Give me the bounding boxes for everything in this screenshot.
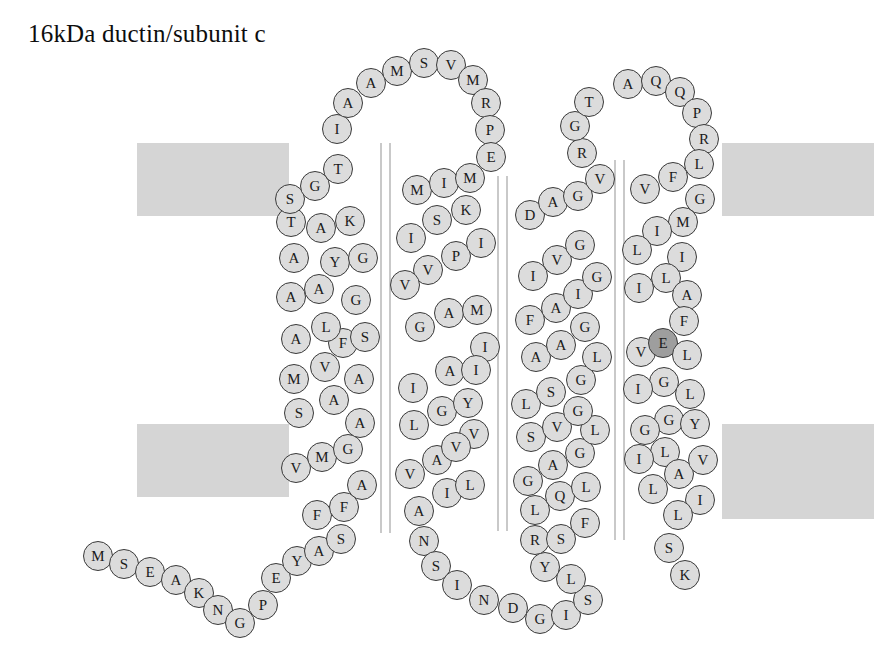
residue-127-L: L <box>684 149 714 179</box>
residue-62-M: M <box>462 295 492 325</box>
residue-26-A: A <box>281 324 311 354</box>
residue-122-A: A <box>613 69 643 99</box>
residue-35-K: K <box>335 206 365 236</box>
helix-rule-3a <box>614 160 616 540</box>
residue-37-A: A <box>306 213 336 243</box>
residue-28-S: S <box>350 322 380 352</box>
residue-32-Y: Y <box>320 247 350 277</box>
residue-70-L: L <box>399 410 429 440</box>
residue-143-L: L <box>675 379 705 409</box>
residue-146-Y: Y <box>680 409 710 439</box>
residue-95-A: A <box>538 450 568 480</box>
residue-80-I: I <box>442 570 472 600</box>
residue-8-P: P <box>248 590 278 620</box>
residue-18-G: G <box>333 434 363 464</box>
residue-107-G: G <box>570 312 600 342</box>
residue-87-Y: Y <box>530 552 560 582</box>
residue-54-S: S <box>422 205 452 235</box>
residue-60-V: V <box>390 270 420 300</box>
residue-73-V: V <box>441 432 471 462</box>
membrane-band-top-left <box>137 143 289 216</box>
membrane-band-bottom-right <box>722 424 874 519</box>
residue-67-I: I <box>398 373 428 403</box>
residue-34-A: A <box>279 243 309 273</box>
residue-15-A: A <box>347 470 377 500</box>
residue-144-I: I <box>623 374 653 404</box>
residue-136-I: I <box>624 273 654 303</box>
residue-77-A: A <box>404 496 434 526</box>
residue-20-A: A <box>319 385 349 415</box>
residue-55-K: K <box>451 195 481 225</box>
residue-74-V: V <box>395 459 425 489</box>
residue-81-N: N <box>469 585 499 615</box>
residue-133-L: L <box>622 235 652 265</box>
residue-66-I: I <box>461 355 491 385</box>
residue-69-Y: Y <box>453 388 483 418</box>
residue-131-M: M <box>668 207 698 237</box>
residue-58-I: I <box>466 228 496 258</box>
membrane-band-bottom-left <box>137 424 289 497</box>
residue-41-I: I <box>322 114 352 144</box>
residue-128-F: F <box>658 162 688 192</box>
helix-rule-1b <box>389 143 391 533</box>
residue-31-G: G <box>341 285 371 315</box>
residue-118-V: V <box>585 164 615 194</box>
residue-156-K: K <box>670 560 700 590</box>
residue-83-G: G <box>525 604 555 634</box>
residue-49-P: P <box>475 115 505 145</box>
residue-152-L: L <box>638 474 668 504</box>
residue-121-T: T <box>574 87 604 117</box>
residue-52-I: I <box>429 168 459 198</box>
residue-29-A: A <box>276 282 306 312</box>
page-title: 16kDa ductin/subunit c <box>28 20 266 48</box>
protein-topology-diagram: 16kDa ductin/subunit c MSEAKNGPEYASFFAVM… <box>0 0 874 659</box>
residue-53-M: M <box>455 163 485 193</box>
residue-27-L: L <box>311 312 341 342</box>
helix-rule-2b <box>506 176 508 531</box>
helix-rule-1a <box>380 143 382 533</box>
residue-151-V: V <box>688 445 718 475</box>
residue-129-V: V <box>630 174 660 204</box>
membrane-band-top-right <box>722 143 874 216</box>
residue-119-R: R <box>567 138 597 168</box>
residue-13-F: F <box>302 500 332 530</box>
residue-102-S: S <box>536 377 566 407</box>
residue-45-S: S <box>409 48 439 78</box>
residue-63-G: G <box>405 312 435 342</box>
residue-21-A: A <box>345 408 375 438</box>
residue-44-M: M <box>382 56 412 86</box>
residue-104-L: L <box>582 342 612 372</box>
residue-76-L: L <box>455 470 485 500</box>
residue-22-M: M <box>279 364 309 394</box>
residue-114-G: G <box>565 230 595 260</box>
residue-155-S: S <box>654 533 684 563</box>
residue-93-L: L <box>571 472 601 502</box>
residue-154-L: L <box>663 500 693 530</box>
residue-30-A: A <box>304 274 334 304</box>
residue-48-R: R <box>471 88 501 118</box>
residue-111-G: G <box>582 262 612 292</box>
residue-19-S: S <box>284 398 314 428</box>
helix-rule-3b <box>623 160 625 540</box>
residue-51-M: M <box>402 175 432 205</box>
residue-90-F: F <box>570 508 600 538</box>
residue-24-A: A <box>344 364 374 394</box>
residue-56-I: I <box>396 223 426 253</box>
residue-82-D: D <box>498 593 528 623</box>
residue-149-I: I <box>624 444 654 474</box>
residue-40-T: T <box>323 154 353 184</box>
residue-86-L: L <box>556 564 586 594</box>
residue-33-G: G <box>348 243 378 273</box>
residue-12-S: S <box>326 524 356 554</box>
residue-141-L: L <box>672 340 702 370</box>
residue-100-G: G <box>563 396 593 426</box>
residue-61-A: A <box>434 298 464 328</box>
